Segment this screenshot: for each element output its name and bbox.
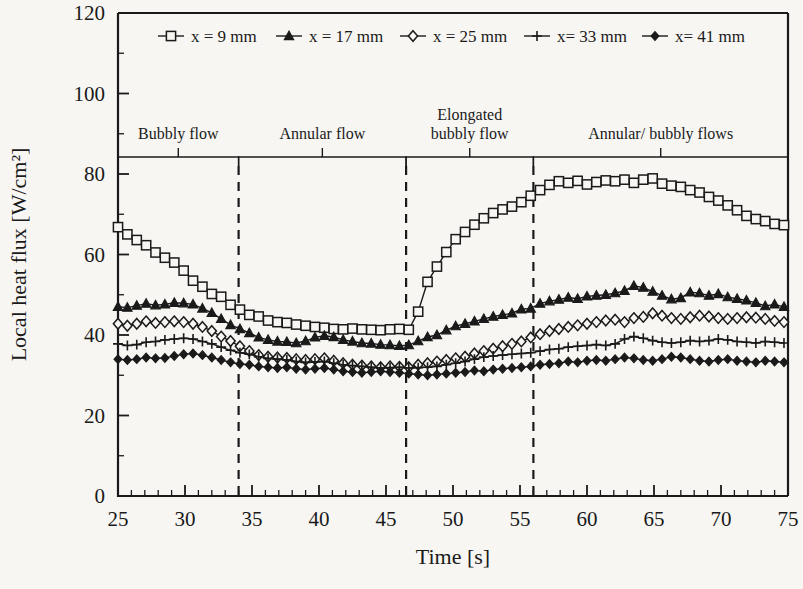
y-tick-label: 120	[74, 1, 106, 25]
marker-filled-triangle	[685, 287, 694, 296]
marker-open-square	[432, 262, 441, 271]
regime-bracket	[118, 157, 239, 166]
marker-open-diamond	[535, 329, 544, 340]
marker-plus	[685, 336, 695, 346]
marker-filled-diamond	[724, 355, 732, 364]
marker-filled-diamond	[133, 355, 141, 364]
marker-filled-diamond	[752, 358, 760, 367]
x-tick-label: 25	[108, 507, 129, 531]
marker-plus	[554, 344, 564, 354]
marker-open-square	[245, 310, 254, 319]
marker-filled-diamond	[714, 356, 722, 365]
marker-filled-diamond	[780, 358, 788, 367]
marker-plus	[488, 351, 498, 361]
marker-open-square	[695, 188, 704, 197]
legend-item: x= 33 mm	[524, 27, 627, 46]
legend-item: x= 41 mm	[642, 27, 745, 46]
y-tick-label: 20	[84, 404, 105, 428]
marker-plus	[582, 341, 592, 351]
marker-filled-triangle	[629, 281, 638, 290]
marker-filled-diamond	[358, 368, 366, 377]
plot-frame	[118, 13, 788, 496]
marker-filled-diamond	[733, 356, 741, 365]
marker-filled-triangle	[648, 287, 657, 296]
marker-filled-diamond	[217, 356, 225, 365]
heat-flux-line-chart: 020406080100120 2530354045505560657075 B…	[0, 0, 803, 589]
x-tick-label: 65	[644, 507, 665, 531]
marker-filled-triangle	[216, 314, 225, 323]
marker-filled-diamond	[170, 352, 178, 361]
marker-open-square	[742, 211, 751, 220]
marker-plus	[113, 339, 123, 349]
marker-filled-triangle	[564, 293, 573, 302]
marker-open-diamond	[573, 320, 582, 331]
marker-plus	[666, 338, 676, 348]
marker-filled-diamond	[583, 356, 591, 365]
marker-open-diamond	[657, 310, 666, 321]
marker-open-square	[310, 322, 319, 331]
chart-legend: x = 9 mmx = 17 mmx = 25 mmx= 33 mmx= 41 …	[158, 27, 745, 46]
marker-filled-triangle	[226, 320, 235, 329]
marker-open-diamond	[751, 312, 760, 323]
marker-plus	[770, 337, 780, 347]
marker-open-square	[423, 277, 432, 286]
marker-open-diamond	[770, 316, 779, 327]
marker-filled-diamond	[771, 357, 779, 366]
marker-open-diamond	[545, 326, 554, 337]
y-axis-ticks	[118, 13, 129, 496]
marker-plus	[601, 341, 611, 351]
marker-filled-diamond	[142, 353, 150, 362]
marker-filled-diamond	[414, 370, 422, 379]
marker-open-diamond	[179, 317, 188, 328]
marker-filled-diamond	[639, 356, 647, 365]
marker-open-square	[385, 325, 394, 334]
marker-open-square	[166, 31, 175, 40]
marker-open-square	[198, 282, 207, 291]
legend-label: x= 33 mm	[557, 27, 627, 46]
axis-lines	[118, 13, 788, 496]
marker-filled-triangle	[676, 293, 685, 302]
marker-filled-diamond	[658, 355, 666, 364]
marker-plus	[151, 336, 161, 346]
marker-open-square	[657, 179, 666, 188]
marker-open-square	[160, 253, 169, 262]
x-tick-label: 50	[443, 507, 464, 531]
marker-filled-diamond	[208, 353, 216, 362]
marker-open-diamond	[408, 31, 417, 42]
marker-open-diamond	[123, 320, 132, 331]
marker-filled-diamond	[630, 354, 638, 363]
marker-plus	[179, 333, 189, 343]
marker-filled-diamond	[545, 360, 553, 369]
marker-open-diamond	[582, 318, 591, 329]
marker-open-square	[564, 178, 573, 187]
regime-label: bubbly flow	[431, 125, 509, 143]
marker-filled-diamond	[302, 365, 310, 374]
marker-filled-triangle	[442, 325, 451, 334]
marker-plus	[751, 338, 761, 348]
legend-label: x = 9 mm	[191, 27, 257, 46]
marker-plus	[535, 346, 545, 356]
marker-open-square	[620, 175, 629, 184]
marker-open-diamond	[517, 336, 526, 347]
marker-filled-diamond	[245, 360, 253, 369]
legend-item: x = 17 mm	[276, 27, 383, 46]
marker-open-square	[751, 214, 760, 223]
marker-plus	[657, 337, 667, 347]
marker-open-square	[489, 208, 498, 217]
marker-open-square	[348, 324, 357, 333]
legend-label: x= 41 mm	[675, 27, 745, 46]
marker-open-square	[526, 191, 535, 200]
marker-filled-diamond	[564, 357, 572, 366]
legend-item: x = 9 mm	[158, 27, 257, 46]
regime-brackets	[118, 148, 788, 166]
marker-open-square	[179, 266, 188, 275]
x-tick-label: 30	[175, 507, 196, 531]
marker-plus	[122, 341, 132, 351]
marker-open-square	[507, 202, 516, 211]
marker-filled-diamond	[677, 353, 685, 362]
marker-open-square	[686, 186, 695, 195]
marker-open-diamond	[695, 310, 704, 321]
marker-filled-diamond	[311, 364, 319, 373]
marker-plus	[532, 31, 542, 41]
marker-open-square	[273, 318, 282, 327]
